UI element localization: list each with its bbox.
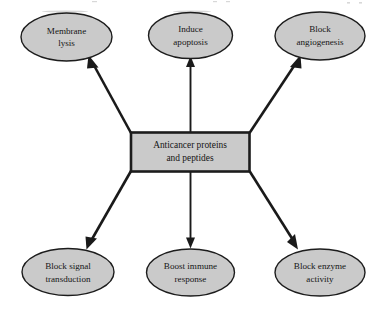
node-shape-ellipse bbox=[22, 249, 114, 296]
node-block-signal-transduction[interactable]: Block signal transduction bbox=[22, 249, 114, 296]
node-membrane-lysis[interactable]: Membrane lysis bbox=[21, 13, 112, 61]
node-block-angiogenesis[interactable]: Block angiogenesis bbox=[275, 12, 365, 60]
node-shape-ellipse bbox=[275, 12, 365, 60]
node-shape-ellipse bbox=[147, 249, 235, 296]
arrowhead bbox=[86, 237, 98, 250]
node-shape-ellipse bbox=[21, 13, 112, 61]
node-shape-ellipse bbox=[149, 13, 233, 59]
node-label-line2: transduction bbox=[46, 274, 91, 284]
node-label-line2: activity bbox=[306, 274, 334, 284]
node-label-line2: angiogenesis bbox=[297, 37, 344, 47]
node-anticancer-proteins-and-peptides[interactable]: Anticancer proteins and peptides bbox=[131, 133, 250, 172]
arrow-to-boost-immune-response bbox=[186, 171, 195, 249]
node-boost-immune-response[interactable]: Boost immune response bbox=[147, 249, 235, 296]
arrow-to-block-signal-transduction bbox=[86, 171, 132, 250]
center-label-line1: Anticancer proteins bbox=[153, 140, 227, 150]
arrowhead bbox=[287, 234, 298, 250]
scan-artifact bbox=[347, 2, 350, 4]
arrow-to-induce-apoptosis bbox=[186, 56, 195, 133]
node-label-line2: response bbox=[175, 274, 207, 284]
scan-artifact bbox=[42, 11, 88, 13]
node-label-line1: Membrane bbox=[47, 26, 86, 36]
arrow-to-block-angiogenesis bbox=[250, 55, 302, 133]
scan-artifact bbox=[359, 2, 362, 4]
node-label-line2: apoptosis bbox=[173, 37, 208, 47]
node-induce-apoptosis[interactable]: Induce apoptosis bbox=[149, 13, 233, 59]
scan-artifact-group bbox=[42, 1, 362, 13]
diagram-container: Membrane lysis Induce apoptosis Block an… bbox=[0, 0, 384, 310]
node-label-line1: Block bbox=[309, 24, 331, 34]
scan-artifact bbox=[213, 1, 217, 2]
node-block-enzyme-activity[interactable]: Block enzyme activity bbox=[275, 249, 365, 296]
arrow-to-block-enzyme-activity bbox=[250, 171, 299, 250]
node-label-line2: lysis bbox=[58, 38, 75, 48]
node-shape-ellipse bbox=[275, 249, 365, 296]
arrowhead bbox=[186, 238, 195, 249]
node-label-line1: Block enzyme bbox=[294, 261, 346, 271]
arrow-to-membrane-lysis bbox=[87, 55, 131, 133]
scan-artifact bbox=[92, 1, 97, 2]
center-label-line2: and peptides bbox=[166, 153, 213, 163]
node-label-line1: Boost immune bbox=[164, 261, 217, 271]
node-label-line1: Block signal bbox=[45, 261, 91, 271]
center-box-shape bbox=[131, 133, 250, 172]
node-label-line1: Induce bbox=[178, 24, 203, 34]
diagram-canvas: Membrane lysis Induce apoptosis Block an… bbox=[0, 0, 384, 310]
scan-artifact bbox=[226, 1, 230, 2]
